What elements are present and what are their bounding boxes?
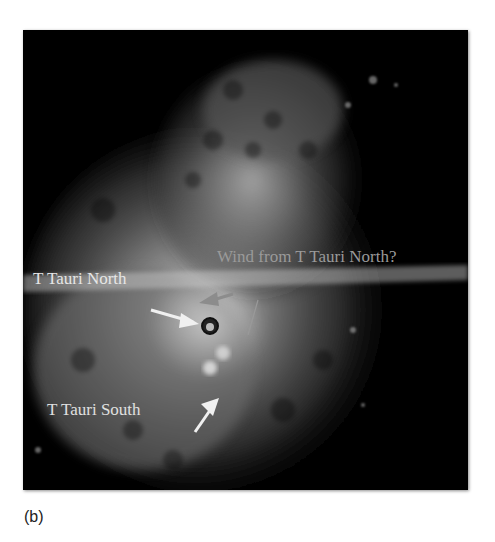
- label-t-tauri-south: T Tauri South: [47, 400, 141, 420]
- label-t-tauri-north: T Tauri North: [33, 269, 127, 289]
- label-wind: Wind from T Tauri North?: [217, 247, 396, 267]
- astronomical-image: T Tauri North T Tauri South Wind from T …: [23, 30, 468, 490]
- figure-caption: (b): [24, 508, 44, 526]
